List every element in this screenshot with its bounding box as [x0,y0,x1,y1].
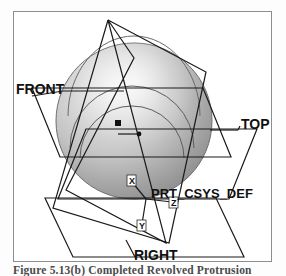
cad-model-drawing: X Y Z PRT_CSYS_DEF FRONT T [14,12,271,261]
datum-plane-label-top: TOP [241,116,270,132]
x-axis-label: X [129,176,135,186]
cad-viewport-frame[interactable]: X Y Z PRT_CSYS_DEF FRONT T [13,11,272,262]
figure-caption: Figure 5.13(b) Completed Revolved Protru… [13,264,272,276]
datum-plane-label-top-group[interactable]: TOP [210,116,270,132]
csys-name-label: PRT_CSYS_DEF [151,186,253,201]
datum-plane-label-right: RIGHT [134,247,178,261]
figure-root: X Y Z PRT_CSYS_DEF FRONT T [0,0,286,276]
leader-endpoint-dot [137,132,142,137]
figure-caption-row: Figure 5.13(b) Completed Revolved Protru… [13,264,272,276]
y-axis-label: Y [139,221,145,231]
datum-plane-label-front: FRONT [16,81,65,97]
datum-plane-label-right-group[interactable]: RIGHT [126,240,178,261]
datum-point-marker [115,120,121,126]
